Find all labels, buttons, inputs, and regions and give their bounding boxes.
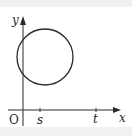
- tick-label-t: t: [93, 113, 98, 125]
- origin-label: O: [9, 114, 19, 126]
- diagram-background: [0, 7, 132, 127]
- tick-label-s: s: [37, 114, 43, 126]
- diagram-canvas: [0, 0, 132, 136]
- y-axis-label: y: [12, 14, 19, 26]
- x-axis-label: x: [119, 112, 126, 124]
